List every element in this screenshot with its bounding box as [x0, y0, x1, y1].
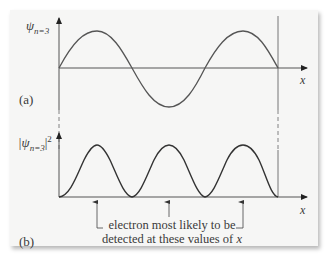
annotation-line-2: detected at these values of x: [102, 232, 242, 246]
probability-density-curve: [59, 145, 278, 197]
psi-curve: [59, 31, 278, 107]
panel-label-b: (b): [19, 234, 34, 250]
x-axis-label-a: x: [300, 73, 305, 88]
annotation-text: electron most likely to be detected at t…: [102, 218, 242, 246]
annotation-line-1: electron most likely to be: [102, 218, 242, 232]
y-axis-label-a: ψn=3: [26, 18, 49, 36]
panel-label-a: (a): [19, 92, 33, 108]
x-axis-label-b: x: [300, 203, 305, 218]
y-axis-label-b: |ψn=3|2: [18, 134, 52, 153]
panel-a-axes: [59, 16, 307, 110]
